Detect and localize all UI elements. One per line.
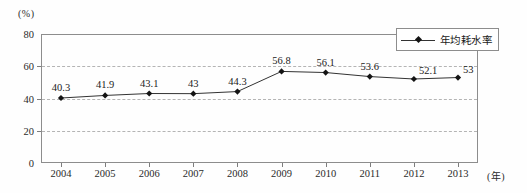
y-tick-label: 60 [12, 61, 34, 72]
x-tick-mark [414, 163, 415, 167]
x-axis-unit-label: (年) [487, 168, 505, 183]
y-axis-unit-label: (%) [18, 8, 35, 19]
gridline [42, 66, 477, 67]
x-tick-mark [149, 163, 150, 167]
data-point-label: 41.9 [96, 79, 114, 90]
x-tick-mark [61, 163, 62, 167]
gridline [42, 99, 477, 100]
data-point-label: 52.1 [419, 64, 437, 75]
x-tick-mark [105, 163, 106, 167]
chart-legend: 年均耗水率 [396, 28, 499, 51]
y-tick-label: 80 [12, 29, 34, 40]
plot-area [41, 34, 478, 163]
y-tick-label: 0 [12, 158, 34, 169]
x-tick-label: 2012 [391, 168, 437, 179]
data-point-label: 40.3 [52, 82, 70, 93]
x-tick-label: 2004 [38, 168, 84, 179]
x-tick-label: 2010 [303, 168, 349, 179]
data-point-label: 43.1 [140, 78, 158, 89]
data-point-label: 44.3 [228, 76, 246, 87]
x-tick-label: 2013 [435, 168, 481, 179]
gridline [42, 131, 477, 132]
x-tick-label: 2011 [347, 168, 393, 179]
data-point-label: 53 [463, 63, 474, 74]
x-tick-label: 2005 [82, 168, 128, 179]
x-tick-mark [282, 163, 283, 167]
x-tick-label: 2008 [214, 168, 260, 179]
data-point-label: 56.1 [316, 57, 334, 68]
data-point-label: 43 [188, 78, 199, 89]
x-tick-label: 2009 [259, 168, 305, 179]
x-tick-label: 2007 [170, 168, 216, 179]
x-tick-mark [326, 163, 327, 167]
y-tick-label: 40 [12, 93, 34, 104]
x-tick-mark [458, 163, 459, 167]
x-tick-mark [237, 163, 238, 167]
x-tick-label: 2006 [126, 168, 172, 179]
legend-label: 年均耗水率 [440, 32, 492, 47]
chart-figure: (%) (年) 020406080 2004200520062007200820… [0, 0, 527, 193]
legend-marker-icon [401, 35, 435, 45]
x-tick-mark [370, 163, 371, 167]
data-point-label: 56.8 [272, 55, 290, 66]
y-tick-label: 20 [12, 125, 34, 136]
data-point-label: 53.6 [361, 61, 379, 72]
x-tick-mark [193, 163, 194, 167]
